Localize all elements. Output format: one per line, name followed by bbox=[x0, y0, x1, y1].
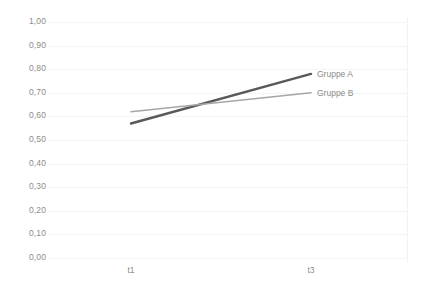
series-lines bbox=[0, 0, 421, 293]
x-axis-tick-label: t1 bbox=[127, 266, 134, 275]
line-chart: 0,000,100,200,300,400,500,600,700,800,90… bbox=[0, 0, 421, 293]
series-line-gruppe-a bbox=[131, 74, 311, 124]
legend-label-gruppe-a: Gruppe A bbox=[317, 70, 353, 79]
series-line-gruppe-b bbox=[131, 93, 311, 112]
x-axis-tick-label: t3 bbox=[307, 266, 314, 275]
legend-label-gruppe-b: Gruppe B bbox=[317, 89, 353, 98]
